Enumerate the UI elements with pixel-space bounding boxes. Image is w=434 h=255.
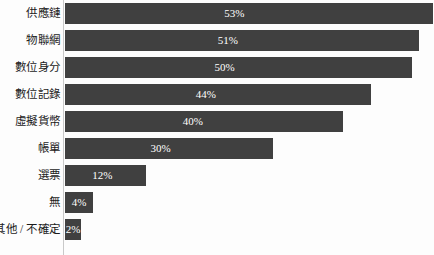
bar-track: 2% xyxy=(65,219,434,240)
bar-track: 50% xyxy=(65,57,434,78)
bar-rows: 供應鏈 53% 物聯網 51% 數位身分 50% xyxy=(0,0,434,243)
table-row: 帳單 30% xyxy=(0,135,434,162)
table-row: 其他 / 不確定 2% xyxy=(0,216,434,243)
bar: 40% xyxy=(65,111,343,132)
bar: 53% xyxy=(65,3,433,24)
category-label: 數位身分 xyxy=(15,54,60,81)
bar-track: 53% xyxy=(65,3,434,24)
bar-value-label: 30% xyxy=(151,138,171,159)
table-row: 選票 12% xyxy=(0,162,434,189)
bar: 12% xyxy=(65,165,146,186)
bar-value-label: 4% xyxy=(72,192,87,213)
bar: 51% xyxy=(65,30,419,51)
table-row: 數位身分 50% xyxy=(0,54,434,81)
bar-value-label: 51% xyxy=(218,30,238,51)
bar: 4% xyxy=(65,192,93,213)
bar-value-label: 40% xyxy=(183,111,203,132)
table-row: 供應鏈 53% xyxy=(0,0,434,27)
category-label: 其他 / 不確定 xyxy=(0,216,60,243)
bar: 44% xyxy=(65,84,371,105)
table-row: 無 4% xyxy=(0,189,434,216)
category-label: 數位記錄 xyxy=(15,81,60,108)
category-label: 選票 xyxy=(38,162,60,189)
category-label: 供應鏈 xyxy=(26,0,60,27)
bar-value-label: 2% xyxy=(66,219,81,240)
category-label: 帳單 xyxy=(38,135,60,162)
category-label: 無 xyxy=(49,189,60,216)
bar-track: 51% xyxy=(65,30,434,51)
horizontal-bar-chart: 供應鏈 53% 物聯網 51% 數位身分 50% xyxy=(0,0,434,255)
bar-value-label: 53% xyxy=(224,3,244,24)
bar-value-label: 12% xyxy=(92,165,112,186)
bar: 2% xyxy=(65,219,81,240)
bar: 30% xyxy=(65,138,273,159)
bar-track: 40% xyxy=(65,111,434,132)
bar-track: 4% xyxy=(65,192,434,213)
bar-value-label: 50% xyxy=(215,57,235,78)
bar-value-label: 44% xyxy=(196,84,216,105)
bar-track: 12% xyxy=(65,165,434,186)
table-row: 物聯網 51% xyxy=(0,27,434,54)
category-label: 虛擬貨幣 xyxy=(15,108,60,135)
category-label: 物聯網 xyxy=(26,27,60,54)
bar: 50% xyxy=(65,57,412,78)
bar-track: 44% xyxy=(65,84,434,105)
bar-track: 30% xyxy=(65,138,434,159)
table-row: 虛擬貨幣 40% xyxy=(0,108,434,135)
table-row: 數位記錄 44% xyxy=(0,81,434,108)
